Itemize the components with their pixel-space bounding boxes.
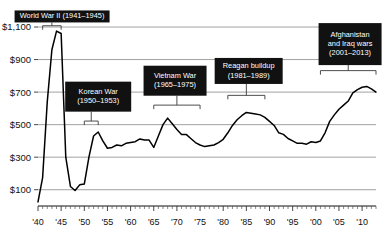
chart-svg: $100$300$500$700$900$1,100 '40'45'50'55'… [0, 0, 383, 235]
y-tick-label: $100 [10, 184, 31, 195]
x-tick-label: '60 [125, 217, 137, 227]
x-tick-label: '50 [78, 217, 90, 227]
callout-label-line: and Iraq wars [328, 39, 373, 48]
callout-afghanistan-iraq-wars: Afghanistanand Iraq wars(2001–2013) [319, 23, 382, 75]
x-tick-label: '95 [287, 217, 299, 227]
callout-bracket [154, 105, 200, 109]
callout-label-line: (1981–1989) [228, 71, 270, 80]
callout-label-line: (2001–2013) [329, 48, 371, 57]
x-tick-label: '40 [32, 217, 44, 227]
x-tick-label: '10 [356, 217, 368, 227]
callout-label-line: Korean War [79, 87, 119, 96]
x-axis [38, 206, 376, 211]
x-tick-label: '80 [217, 217, 229, 227]
callout-label-line: (1950–1953) [77, 96, 119, 105]
callout-bracket [320, 71, 376, 75]
x-tick-label: '55 [102, 217, 114, 227]
callout-bracket [228, 95, 265, 99]
callout-label-line: World War II (1941–1945) [20, 11, 105, 20]
x-tick-label: '65 [148, 217, 160, 227]
x-tick-label: '90 [264, 217, 276, 227]
y-tick-label: $300 [10, 152, 31, 163]
callout-label-line: Reagan buildup [223, 61, 275, 70]
x-tick-label: '45 [55, 217, 67, 227]
callout-vietnam-war: Vietnam War(1965–1975) [144, 66, 207, 109]
y-tick-label: $700 [10, 87, 31, 98]
y-axis-tick-labels: $100$300$500$700$900$1,100 [2, 21, 31, 195]
callout-reagan-buildup: Reagan buildup(1981–1989) [215, 58, 283, 99]
x-tick-label: '85 [240, 217, 252, 227]
y-tick-label: $900 [10, 54, 31, 65]
callout-bracket [43, 26, 62, 30]
callout-label-line: Afghanistan [331, 30, 370, 39]
annotation-callouts: World War II (1941–1945)Korean War(1950–… [15, 10, 382, 125]
y-tick-label: $500 [10, 119, 31, 130]
x-axis-tick-labels: '40'45'50'55'60'65'70'75'80'85'90'95'00'… [32, 217, 368, 227]
callout-label-line: Vietnam War [154, 71, 197, 80]
x-tick-label: '05 [333, 217, 345, 227]
x-tick-label: '75 [194, 217, 206, 227]
callout-korean-war: Korean War(1950–1953) [65, 82, 131, 125]
x-tick-label: '00 [310, 217, 322, 227]
callout-label-line: (1965–1975) [154, 80, 196, 89]
y-tick-label: $1,100 [2, 21, 31, 32]
defense-spending-chart: $100$300$500$700$900$1,100 '40'45'50'55'… [0, 0, 383, 235]
x-tick-label: '70 [171, 217, 183, 227]
